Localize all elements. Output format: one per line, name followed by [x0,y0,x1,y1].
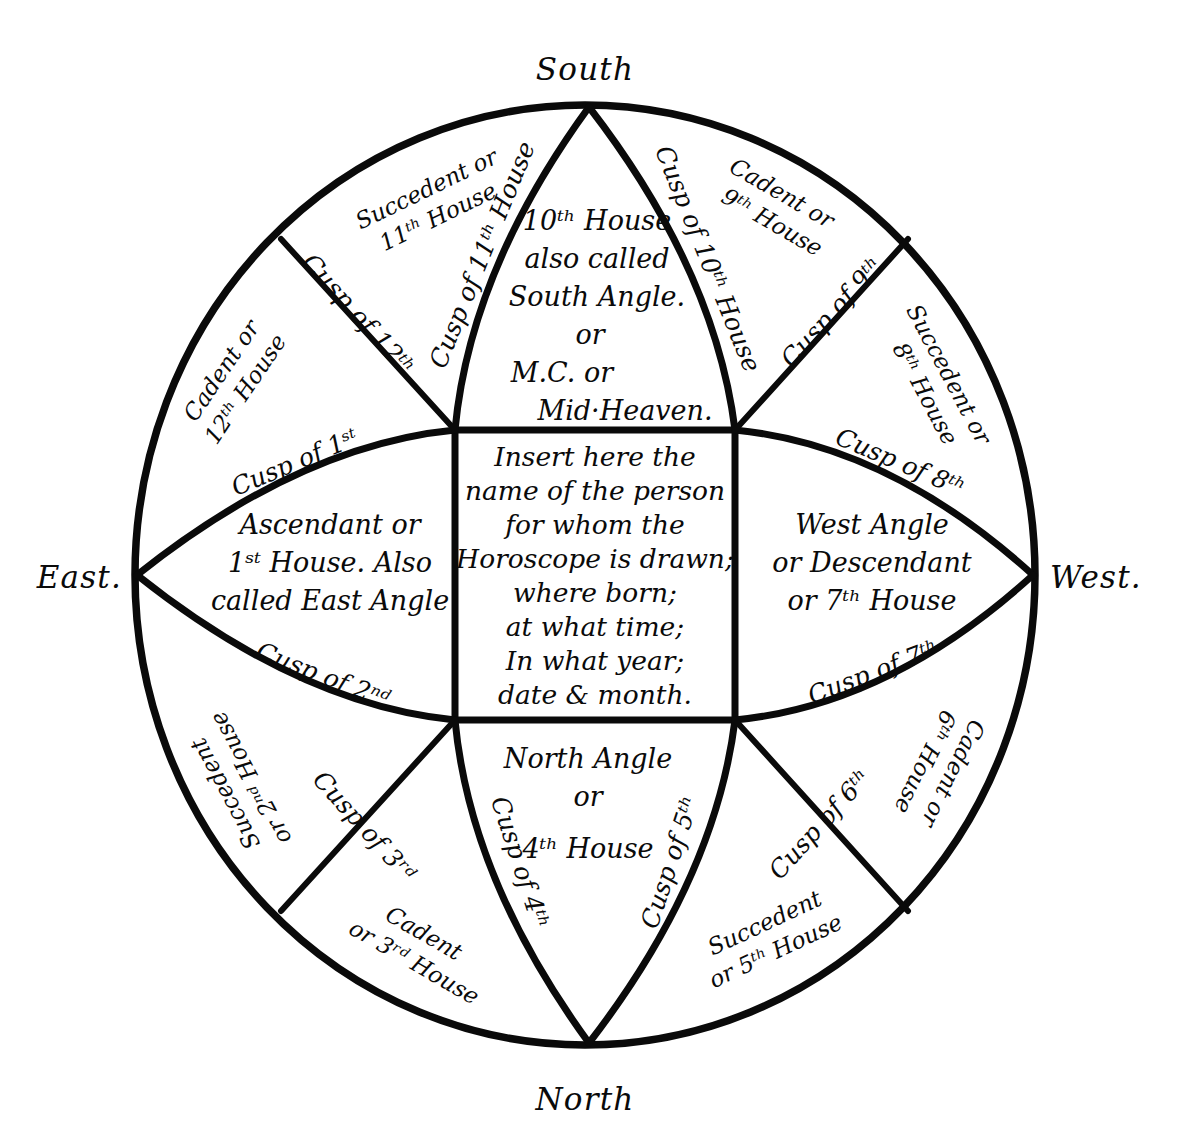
sector-cadent-9: Cadent or 9ᵗʰ House [710,153,842,261]
house-10-line-6: Mid·Heaven. [537,395,713,426]
compass-label-south: South [536,51,634,87]
centre-line-2: name of the person [465,475,725,506]
sector-cadent-3: Cadent or 3ʳᵈ House [345,888,499,1009]
sector-succedent-8: Succedent or 8ᵗʰ House [875,300,998,464]
centre-line-6: at what time; [506,611,684,642]
house-7-block: West Angle or Descendant or 7ᵗʰ House [772,509,971,616]
compass-label-north: North [534,1081,634,1117]
sector-succedent-2: Succedent or 2ⁿᵈ House [178,707,296,863]
house-10-line-1: 10ᵗʰ House [523,205,671,236]
house-7-line-2: or Descendant [772,547,971,578]
house-10-line-4: or [575,319,606,350]
centre-rectangle [455,430,735,720]
cusp-label-9: Cusp of 9ᵗʰ [775,252,888,373]
centre-line-1: Insert here the [493,441,695,472]
centre-line-4: Horoscope is drawn; [455,543,734,574]
sector-cadent-12: Cadent or 12ᵗʰ House [174,313,291,449]
house-7-line-3: or 7ᵗʰ House [788,585,957,616]
house-10-line-3: South Angle. [509,281,685,312]
cusp-label-3: Cusp of 3ʳᵈ [307,765,421,888]
house-10-line-5: M.C. or [510,357,615,388]
house-4-line-2: or [573,781,604,812]
cusp-label-2: Cusp of 2ⁿᵈ [252,636,393,713]
house-10-block: 10ᵗʰ House also called South Angle. or M… [509,205,713,426]
house-1-line-3: called East Angle [211,585,449,616]
house-1-line-2: 1ˢᵗ House. Also [228,547,432,578]
cusp-label-7: Cusp of 7ᵗʰ [804,634,942,710]
horoscope-figure: South North East. West. Insert here the … [0,0,1179,1142]
house-10-line-2: also called [524,243,669,274]
horoscope-diagram: South North East. West. Insert here the … [0,0,1179,1142]
house-4-line-3: 4ᵗʰ House [521,833,653,864]
compass-label-east: East. [36,559,122,595]
house-1-line-1: Ascendant or [236,509,422,540]
centre-line-5: where born; [513,577,677,608]
centre-instruction-block: Insert here the name of the person for w… [455,441,734,710]
cusp-label-1: Cusp of 1ˢᵗ [227,422,362,501]
centre-line-8: date & month. [498,679,692,710]
house-1-block: Ascendant or 1ˢᵗ House. Also called East… [211,509,449,616]
compass-label-west: West. [1050,559,1142,595]
centre-line-3: for whom the [503,509,685,540]
house-4-line-1: North Angle [503,743,672,774]
centre-line-7: In what year; [505,645,685,676]
house-7-line-1: West Angle [795,509,949,540]
cusp-label-6: Cusp of 6ᵗʰ [763,764,876,885]
cusp-label-12: Cusp of 12ᵗʰ [296,248,420,381]
